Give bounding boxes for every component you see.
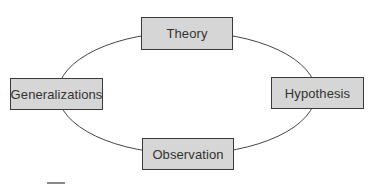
cropped-caption-fragment	[47, 182, 65, 187]
node-theory: Theory	[141, 17, 233, 50]
node-observation-label: Observation	[152, 147, 223, 162]
node-theory-label: Theory	[166, 26, 207, 41]
node-hypothesis: Hypothesis	[271, 77, 364, 109]
node-generalizations: Generalizations	[10, 78, 103, 110]
node-hypothesis-label: Hypothesis	[285, 86, 350, 101]
node-generalizations-label: Generalizations	[11, 87, 103, 102]
node-observation: Observation	[142, 138, 234, 170]
research-cycle-diagram: Theory Hypothesis Observation Generaliza…	[0, 0, 374, 187]
